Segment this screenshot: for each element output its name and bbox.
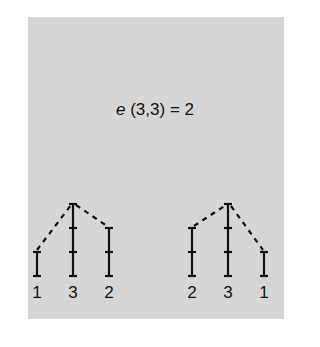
right-label-2: 3	[218, 283, 238, 303]
right-label-3: 1	[254, 283, 274, 303]
right-tree	[188, 204, 268, 276]
left-label-1: 1	[27, 283, 47, 303]
left-label-3: 2	[99, 283, 119, 303]
right-label-1: 2	[182, 283, 202, 303]
left-tree	[33, 204, 113, 276]
left-label-2: 3	[63, 283, 83, 303]
